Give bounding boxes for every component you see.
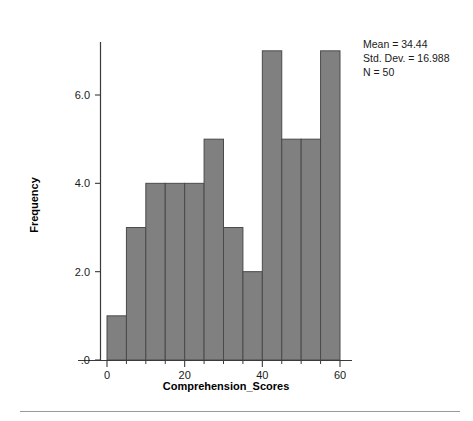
y-tick-label: 2.0 <box>75 266 90 278</box>
histogram-bar <box>321 51 340 360</box>
histogram-figure: .02.04.06.0 0204060 Frequency Comprehens… <box>0 0 473 421</box>
x-tick-label: 60 <box>334 369 346 381</box>
histogram-bar <box>243 272 262 360</box>
stat-n: N = 50 <box>363 66 394 78</box>
x-axis-title: Comprehension_Scores <box>163 380 290 392</box>
y-axis-title: Frequency <box>28 176 40 233</box>
statistics-legend: Mean = 34.44 Std. Dev. = 16.988 N = 50 <box>363 38 450 78</box>
histogram-bar <box>224 228 243 361</box>
x-axis-ticks: 0204060 <box>104 361 346 382</box>
histogram-bar <box>301 139 320 360</box>
histogram-bar <box>282 139 301 360</box>
y-tick-label: 6.0 <box>75 89 90 101</box>
histogram-bar <box>204 139 223 360</box>
histogram-bar <box>185 183 204 360</box>
histogram-bar <box>165 183 184 360</box>
y-tick-label: 4.0 <box>75 177 90 189</box>
histogram-bar <box>146 183 165 360</box>
stat-std-dev: Std. Dev. = 16.988 <box>363 52 450 64</box>
histogram-bar <box>262 51 281 360</box>
stat-mean: Mean = 34.44 <box>363 38 428 50</box>
x-tick-label: 0 <box>104 369 110 381</box>
y-tick-label: .0 <box>81 354 90 366</box>
y-axis-ticks: .02.04.06.0 <box>75 89 101 366</box>
bar-series <box>107 51 340 360</box>
histogram-bar <box>126 228 145 361</box>
histogram-canvas: .02.04.06.0 0204060 Frequency Comprehens… <box>0 0 473 421</box>
histogram-bar <box>107 316 126 360</box>
